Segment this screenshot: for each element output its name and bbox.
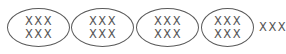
node-line-1: XXX: [213, 15, 242, 28]
node-line-2: XXX: [153, 28, 182, 41]
node-line-1: XXX: [153, 15, 182, 28]
ellipse-node-1: XXX XXX: [7, 8, 70, 47]
node-line-2: XXX: [88, 28, 117, 41]
ellipse-node-2: XXX XXX: [71, 8, 134, 47]
node-line-1: XXX: [88, 15, 117, 28]
ellipse-node-4: XXX XXX: [201, 8, 254, 47]
node-line-2: XXX: [213, 28, 242, 41]
node-line-1: XXX: [24, 15, 53, 28]
ellipse-node-3: XXX XXX: [136, 8, 199, 47]
trailing-label: XXX: [259, 20, 286, 34]
node-line-2: XXX: [24, 28, 53, 41]
